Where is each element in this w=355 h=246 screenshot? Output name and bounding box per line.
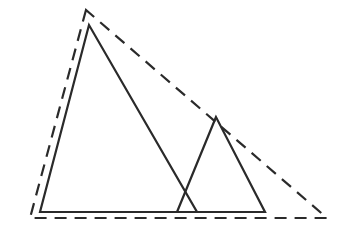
enclosing-dashed-triangle bbox=[30, 10, 327, 218]
small-solid-triangle bbox=[177, 117, 265, 212]
triangle-diagram bbox=[0, 0, 355, 246]
large-solid-triangle bbox=[40, 25, 197, 212]
